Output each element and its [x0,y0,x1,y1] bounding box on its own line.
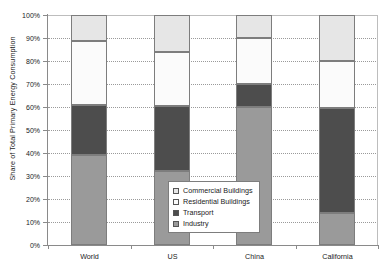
bar-segment [319,108,355,213]
x-tick-label: China [213,252,296,261]
stacked-bar [71,15,107,245]
y-tick-mark [43,130,48,131]
legend-label: Commercial Buildings [183,187,253,195]
stacked-bar-chart: 0%10%20%30%40%50%60%70%80%90%100% Share … [0,0,386,278]
bar-segment [71,105,107,156]
legend-label: Industry [183,220,209,228]
chart-legend: Commercial BuildingsResidential Building… [168,181,260,233]
y-tick-mark [43,107,48,108]
y-tick-label: 10% [0,219,40,226]
x-tick-label: World [48,252,131,261]
legend-label: Transport [183,209,214,217]
legend-item: Industry [173,218,254,229]
y-tick-mark [43,15,48,16]
y-tick-label: 40% [0,150,40,157]
y-tick-label: 70% [0,81,40,88]
plot-right-border [377,15,378,245]
legend-label: Residential Buildings [183,198,250,206]
y-tick-mark [43,153,48,154]
y-tick-label: 90% [0,35,40,42]
legend-swatch-icon [173,221,179,227]
y-tick-label: 60% [0,104,40,111]
y-tick-label: 0% [0,242,40,249]
bar-segment [236,84,272,107]
y-tick-label: 20% [0,196,40,203]
y-axis-label: Share of Total Primary Energy Consumptio… [8,24,17,194]
bar-segment [319,61,355,108]
y-tick-label: 50% [0,127,40,134]
x-tick-mark [213,245,214,249]
legend-item: Commercial Buildings [173,185,254,196]
bar-segment [236,15,272,38]
bar-segment [236,38,272,84]
stacked-bar [319,15,355,245]
bar-segment [154,52,190,106]
x-tick-label: California [296,252,379,261]
y-tick-mark [43,61,48,62]
y-tick-label: 80% [0,58,40,65]
y-tick-mark [43,222,48,223]
bar-segment [71,15,107,41]
x-tick-mark [48,245,49,249]
legend-swatch-icon [173,188,179,194]
x-tick-label: US [131,252,214,261]
y-tick-label: 100% [0,12,40,19]
x-tick-mark [296,245,297,249]
y-tick-mark [43,84,48,85]
bar-segment [154,106,190,172]
bar-segment [154,15,190,52]
x-tick-mark [131,245,132,249]
bar-segment [319,213,355,245]
y-tick-mark [43,38,48,39]
y-tick-label: 30% [0,173,40,180]
legend-swatch-icon [173,210,179,216]
legend-item: Residential Buildings [173,196,254,207]
bar-segment [71,41,107,104]
bar-segment [319,15,355,61]
legend-swatch-icon [173,199,179,205]
x-tick-mark [378,245,379,249]
y-tick-mark [43,199,48,200]
bar-segment [71,155,107,245]
legend-item: Transport [173,207,254,218]
y-tick-mark [43,176,48,177]
